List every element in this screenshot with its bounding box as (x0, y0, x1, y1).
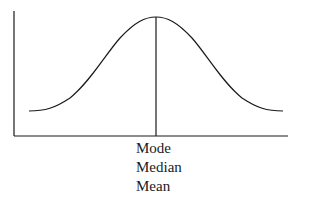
median-label: Median (136, 158, 196, 176)
mean-label: Mean (136, 177, 196, 195)
mode-label: Mode (136, 139, 196, 157)
